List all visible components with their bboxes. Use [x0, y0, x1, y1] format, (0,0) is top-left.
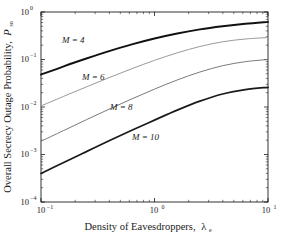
x-axis-title-text: Density of Eavesdroppers, λ e [84, 221, 211, 233]
y-tick-4-exponent: −4 [30, 195, 36, 201]
y-tick-1-base: 10 [21, 54, 30, 64]
y-tick-2-base: 10 [21, 102, 30, 112]
y-axis-title-text: Overall Secrecy Outage Probability, P so [2, 21, 14, 193]
y-axis-title-symbol: P [2, 29, 13, 37]
y-tick-0-base: 10 [21, 7, 30, 17]
x-tick-label-0: 10 −1 [37, 204, 53, 215]
x-tick-label-2: 10 1 [262, 204, 277, 215]
curve-label-m6: M = 6 [81, 72, 105, 82]
x-axis-title-main: Density of Eavesdroppers, [84, 221, 195, 232]
x-tick-0-exponent: −1 [47, 204, 53, 210]
y-tick-label-1: 10 −1 [21, 52, 37, 64]
x-axis-title-subscript: e [209, 227, 212, 233]
y-axis-title: Overall Secrecy Outage Probability, P so [2, 21, 14, 193]
chart-figure: 10 −1 10 0 10 1 10 0 10 −1 10 −2 10 −3 1 [0, 0, 281, 234]
curve-m8 [41, 60, 268, 142]
y-axis-title-main: Overall Secrecy Outage Probability, [2, 41, 13, 193]
y-axis-title-subscript: so [8, 21, 14, 26]
x-tick-1-base: 10 [150, 205, 159, 215]
x-axis-title: Density of Eavesdroppers, λ e [84, 221, 211, 233]
y-tick-label-0: 10 0 [21, 5, 34, 17]
curve-label-m10: M = 10 [131, 132, 160, 142]
log-log-line-chart: 10 −1 10 0 10 1 10 0 10 −1 10 −2 10 −3 1 [0, 0, 281, 234]
curve-label-m4: M = 4 [61, 35, 85, 45]
y-tick-0-exponent: 0 [30, 5, 33, 11]
x-tick-0-base: 10 [37, 205, 46, 215]
y-tick-3-exponent: −3 [30, 147, 36, 153]
y-tick-label-2: 10 −2 [21, 100, 37, 112]
y-tick-3-base: 10 [21, 149, 30, 159]
y-tick-2-exponent: −2 [30, 100, 36, 106]
x-axis-title-symbol: λ [201, 221, 207, 232]
curve-m6 [41, 38, 268, 106]
x-tick-label-1: 10 0 [150, 204, 165, 215]
x-tick-2-exponent: 1 [274, 204, 277, 210]
y-tick-4-base: 10 [21, 197, 30, 207]
curve-m10 [41, 87, 268, 173]
x-tick-2-base: 10 [262, 205, 271, 215]
x-tick-1-exponent: 0 [162, 204, 165, 210]
y-tick-label-3: 10 −3 [21, 147, 37, 159]
y-tick-label-4: 10 −4 [21, 195, 37, 207]
y-tick-1-exponent: −1 [30, 52, 36, 58]
curve-m4 [41, 22, 268, 75]
curve-label-m8: M = 8 [109, 102, 133, 112]
